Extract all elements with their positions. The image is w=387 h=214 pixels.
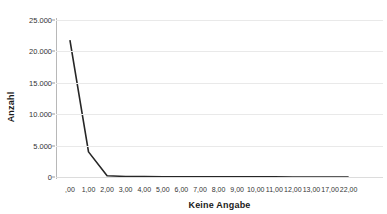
x-tick-label: 17,00 <box>321 186 339 193</box>
y-tick-mark <box>52 145 55 146</box>
line-chart: Anzahl 05.00010.00015.00020.00025.000 ,0… <box>0 0 387 214</box>
gridline <box>56 83 383 84</box>
gridline <box>56 177 383 178</box>
x-tick-label: 13,00 <box>303 186 321 193</box>
gridline <box>56 20 383 21</box>
x-tick-label: 7,00 <box>193 186 207 193</box>
x-tick-label: 12,00 <box>284 186 302 193</box>
x-tick-label: 6,00 <box>175 186 189 193</box>
plot-area <box>56 20 383 177</box>
x-tick-label: 22,00 <box>340 186 358 193</box>
y-tick-mark <box>52 82 55 83</box>
y-tick-label: 25.000 <box>29 16 52 25</box>
x-tick-label: 1,00 <box>82 186 96 193</box>
x-axis-title: Keine Angabe <box>56 200 383 210</box>
y-tick-mark <box>52 20 55 21</box>
x-tick-label: 9,00 <box>230 186 244 193</box>
data-series-line <box>56 20 383 177</box>
y-tick-label: 15.000 <box>29 78 52 87</box>
gridline <box>56 114 383 115</box>
y-tick-mark <box>52 51 55 52</box>
x-tick-label: 3,00 <box>119 186 133 193</box>
y-tick-mark <box>52 177 55 178</box>
gridline <box>56 146 383 147</box>
x-tick-label: 4,00 <box>137 186 151 193</box>
y-tick-label: 5.000 <box>33 141 52 150</box>
x-tick-label: 10,00 <box>247 186 265 193</box>
y-tick-label: 10.000 <box>29 110 52 119</box>
gridline <box>56 51 383 52</box>
y-axis-tick-labels: 05.00010.00015.00020.00025.000 <box>18 0 52 214</box>
x-tick-label: 2,00 <box>100 186 114 193</box>
x-tick-label: 5,00 <box>156 186 170 193</box>
x-tick-label: 8,00 <box>212 186 226 193</box>
x-tick-label: 11,00 <box>266 186 283 193</box>
y-tick-label: 20.000 <box>29 47 52 56</box>
y-tick-mark <box>52 114 55 115</box>
x-axis-tick-labels: ,001,002,003,004,005,006,007,008,009,001… <box>56 186 383 198</box>
x-tick-label: ,00 <box>65 186 75 193</box>
